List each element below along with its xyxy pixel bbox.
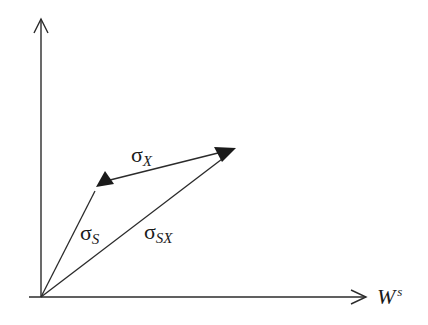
sigma-symbol: σ — [80, 220, 92, 245]
arrowhead-left-icon — [96, 171, 114, 187]
sigma-symbol: σ — [131, 142, 143, 167]
y-axis — [34, 19, 48, 297]
subscript: X — [143, 153, 152, 169]
vector-diagram — [0, 0, 428, 325]
label-sigma-sx: σSX — [144, 219, 173, 245]
arrowhead-right-icon — [214, 147, 236, 162]
subscript: SX — [156, 230, 173, 246]
x-axis-label: Ws — [377, 284, 402, 310]
label-sigma-s: σS — [80, 220, 99, 246]
label-sigma-x: σX — [131, 142, 152, 168]
subscript: S — [92, 231, 100, 247]
x-axis — [29, 290, 366, 304]
vector-sigma-x — [110, 152, 222, 180]
x-axis-label-superscript: s — [397, 284, 402, 299]
vector-sigma-sx — [41, 156, 226, 297]
x-axis-label-main: W — [377, 284, 395, 309]
sigma-symbol: σ — [144, 219, 156, 244]
